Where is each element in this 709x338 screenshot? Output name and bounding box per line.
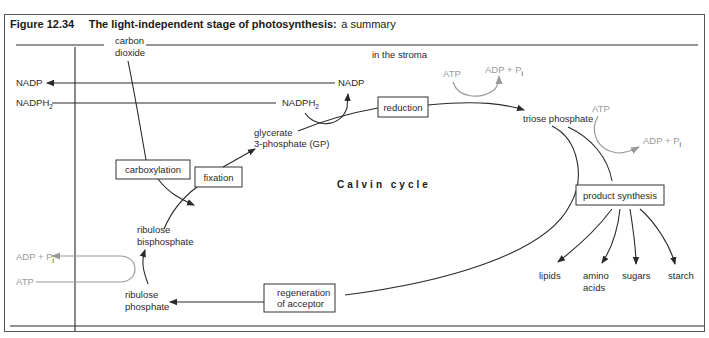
- adp-pi-regeneration-label: ADP + Pi: [16, 251, 54, 264]
- product-amino-acids-label: amino acids: [583, 270, 612, 293]
- in-the-stroma-label: in the stroma: [372, 49, 428, 60]
- carboxylation-label: carboxylation: [125, 164, 181, 175]
- calvin-cycle-figure: Figure 12.34 The light-independent stage…: [0, 0, 709, 338]
- glycerate-3-phosphate-label: glycerate 3-phosphate (GP): [254, 127, 330, 149]
- nadp-output-label: NADP: [16, 77, 42, 88]
- adp-pi-product-label: ADP + Pi: [643, 135, 681, 148]
- fixation-to-gp-arrow: [223, 149, 255, 167]
- co2-to-carboxylation-line: [128, 61, 146, 160]
- adp-pi-reduction-label: ADP + Pi: [485, 64, 523, 77]
- ribulose-phosphate-to-bisphosphate-arrow: [143, 250, 148, 284]
- atp-to-adp-product-arrow: [594, 116, 639, 153]
- atp-reduction-label: ATP: [443, 68, 461, 79]
- arrow-to-lipids: [558, 209, 612, 262]
- triose-phosphate-label: triose phosphate: [523, 113, 593, 124]
- nadph2-input-label: NADPH2: [16, 97, 53, 110]
- figure-title: Figure 12.34 The light-independent stage…: [10, 14, 396, 31]
- product-synthesis-label: product synthesis: [583, 190, 657, 201]
- arrow-to-sugars: [630, 209, 636, 264]
- nadph2-label: NADPH2: [282, 97, 319, 110]
- carbon-dioxide-label: carbon dioxide: [115, 35, 147, 58]
- atp-product-label: ATP: [592, 103, 610, 114]
- arrow-to-starch: [640, 209, 675, 264]
- arrow-to-amino-acids: [602, 209, 620, 263]
- product-starch-label: starch: [668, 270, 694, 281]
- gp-to-reduction-line: [298, 108, 378, 131]
- calvin-cycle-label: Calvin cycle: [337, 179, 431, 190]
- atp-regeneration-label: ATP: [16, 276, 34, 287]
- atp-to-adp-reduction-arrow: [453, 76, 499, 96]
- nadp-label: NADP: [338, 77, 364, 88]
- ribulose-phosphate-label: ribulose phosphate: [125, 289, 169, 312]
- triose-to-product-synthesis-line: [568, 127, 612, 181]
- reduction-label: reduction: [383, 102, 422, 113]
- fixation-label: fixation: [203, 172, 233, 183]
- rubp-to-fixation-line: [164, 187, 197, 229]
- carboxylation-to-fixation-arrow: [158, 179, 194, 205]
- reduction-to-triose-arrow: [428, 103, 524, 110]
- product-lipids-label: lipids: [539, 270, 561, 281]
- product-sugars-label: sugars: [622, 270, 651, 281]
